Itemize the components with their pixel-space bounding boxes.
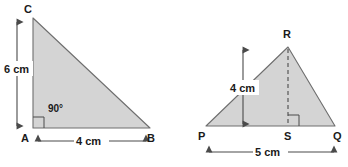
geometry-figure-canvas: 90° 6 cm 4 cm C A B 4 cm 5 cm R P S Q bbox=[0, 0, 348, 167]
vertex-label-r: R bbox=[283, 28, 291, 40]
dimension-label-height-abc: 6 cm bbox=[4, 63, 29, 75]
vertex-label-b: B bbox=[147, 132, 155, 144]
vertex-label-p: P bbox=[198, 130, 205, 142]
vertex-label-a: A bbox=[21, 132, 29, 144]
dimension-label-base-abc: 4 cm bbox=[76, 135, 101, 147]
dimension-label-height-pqr: 4 cm bbox=[230, 82, 255, 94]
figure-triangle-pqr: 4 cm 5 cm R P S Q bbox=[198, 28, 342, 160]
vertex-label-s: S bbox=[284, 130, 291, 142]
angle-label-90: 90° bbox=[48, 103, 63, 114]
figure-triangle-abc: 90° 6 cm 4 cm C A B bbox=[2, 3, 155, 149]
vertex-label-q: Q bbox=[333, 130, 342, 142]
dimension-label-base-pqr: 5 cm bbox=[255, 146, 280, 158]
vertex-label-c: C bbox=[24, 3, 32, 15]
triangle-pqr-shape bbox=[206, 47, 335, 126]
